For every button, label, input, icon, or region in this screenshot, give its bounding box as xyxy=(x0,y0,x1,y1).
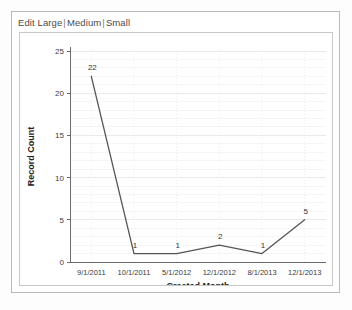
x-tick-label: 9/1/2011 xyxy=(77,268,106,277)
x-tick-label: 5/1/2012 xyxy=(162,268,191,277)
data-point-label: 1 xyxy=(133,241,138,250)
vertical-gridlines xyxy=(91,51,304,262)
data-line xyxy=(91,76,304,253)
x-axis-title: Created Month xyxy=(167,281,230,285)
x-tick-label: 12/1/2013 xyxy=(288,268,321,277)
edit-link[interactable]: Edit xyxy=(18,17,35,28)
y-tick-labels: 0510152025 xyxy=(55,47,70,267)
y-tick-label: 15 xyxy=(55,131,64,140)
chart-panel: 0510152025 9/1/201110/1/20115/1/201212/1… xyxy=(19,32,333,286)
data-point-label: 22 xyxy=(88,63,97,72)
x-tick-labels: 9/1/201110/1/20115/1/201212/1/20128/1/20… xyxy=(77,268,321,277)
x-tick-label: 10/1/2011 xyxy=(118,268,151,277)
chart-card: Edit Large|Medium|Small 0510152025 9/1/2… xyxy=(11,11,340,293)
plot-area: 0510152025 9/1/201110/1/20115/1/201212/1… xyxy=(20,33,332,285)
data-point-label: 2 xyxy=(218,232,223,241)
data-point-label: 5 xyxy=(303,207,308,216)
data-point-labels: 2211215 xyxy=(88,63,309,249)
size-small-link[interactable]: Small xyxy=(106,17,130,28)
line-chart: 0510152025 9/1/201110/1/20115/1/201212/1… xyxy=(20,33,332,285)
data-point-label: 1 xyxy=(175,241,180,250)
x-tick-label: 8/1/2013 xyxy=(247,268,276,277)
y-tick-label: 25 xyxy=(55,47,64,56)
y-axis-title: Record Count xyxy=(26,127,36,187)
toolbar: Edit Large|Medium|Small xyxy=(18,17,130,31)
size-medium-link[interactable]: Medium xyxy=(67,17,101,28)
size-large-link[interactable]: Large xyxy=(38,17,63,28)
gridlines xyxy=(70,51,326,262)
y-tick-label: 5 xyxy=(60,216,65,225)
y-tick-label: 0 xyxy=(60,258,65,267)
data-point-label: 1 xyxy=(261,241,266,250)
x-tick-label: 12/1/2012 xyxy=(203,268,236,277)
screenshot-root: Edit Large|Medium|Small 0510152025 9/1/2… xyxy=(0,0,352,310)
y-tick-label: 20 xyxy=(55,89,64,98)
y-tick-label: 10 xyxy=(55,174,64,183)
